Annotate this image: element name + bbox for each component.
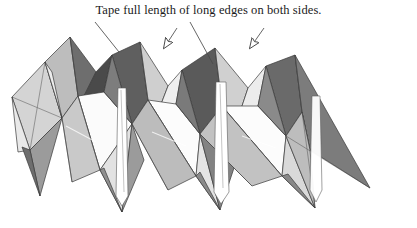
pointer-arrows xyxy=(164,28,264,48)
tape-strip-left xyxy=(116,88,128,206)
arrow-right xyxy=(250,28,264,48)
illustration-page: Tape full length of long edges on both s… xyxy=(0,0,417,228)
leader-line-left xyxy=(95,22,119,52)
tape-strip-center xyxy=(214,82,229,204)
origami-figure xyxy=(0,0,417,228)
tape-strip-right xyxy=(310,96,322,202)
arrow-left xyxy=(164,28,177,48)
